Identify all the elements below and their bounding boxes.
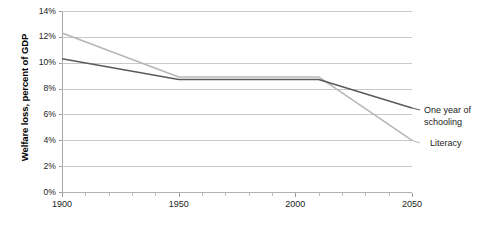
gridline-2 (62, 166, 412, 167)
gridline-10 (62, 63, 412, 64)
x-axis-minor-tick (225, 193, 226, 196)
gridline-0 (62, 192, 412, 193)
plot-area (62, 11, 412, 192)
y-axis-tick-label: 8% (18, 84, 56, 93)
series-label-literacy: Literacy (430, 138, 488, 150)
y-axis-tick-label: 6% (18, 110, 56, 119)
series-label-one-year-of-schooling: One year of schooling (424, 105, 486, 128)
gridline-14 (62, 11, 412, 12)
x-axis-minor-tick (155, 193, 156, 196)
x-axis-minor-tick (85, 193, 86, 196)
y-axis-tick-label: 4% (18, 136, 56, 145)
y-axis-tick-label: 2% (18, 162, 56, 171)
x-axis-tick-label: 2000 (275, 199, 315, 209)
gridline-8 (62, 89, 412, 90)
x-axis-tick-label: 1900 (42, 199, 82, 209)
x-axis-minor-tick (202, 193, 203, 196)
gridline-12 (62, 37, 412, 38)
y-axis-tick-label: 0% (18, 188, 56, 197)
gridline-6 (62, 114, 412, 115)
y-axis-tick-label: 12% (18, 32, 56, 41)
y-axis-tick-label: 14% (18, 7, 56, 16)
x-axis-minor-tick (319, 193, 320, 196)
x-axis-tick-label: 1950 (159, 199, 199, 209)
x-axis-tick-label: 2050 (392, 199, 432, 209)
x-axis-major-tick (62, 193, 63, 197)
x-axis-minor-tick (342, 193, 343, 196)
x-axis-major-tick (179, 193, 180, 197)
x-axis-minor-tick (249, 193, 250, 196)
x-axis-minor-tick (109, 193, 110, 196)
chart-container: Welfare loss, percent of GDP 0%2%4%6%8%1… (0, 0, 489, 228)
x-axis-minor-tick (365, 193, 366, 196)
x-axis-minor-tick (389, 193, 390, 196)
x-axis-minor-tick (272, 193, 273, 196)
x-axis-minor-tick (132, 193, 133, 196)
y-axis-tick-label: 10% (18, 58, 56, 67)
gridline-4 (62, 140, 412, 141)
x-axis-major-tick (412, 193, 413, 197)
x-axis-major-tick (295, 193, 296, 197)
